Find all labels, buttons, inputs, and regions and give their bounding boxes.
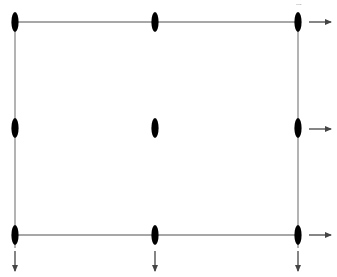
node-top-left	[11, 12, 18, 32]
node-top-middle	[151, 12, 158, 32]
node-middle-left	[11, 118, 18, 138]
node-top-right	[294, 12, 301, 32]
node-bottom-middle	[151, 225, 158, 245]
node-middle-right	[294, 118, 301, 138]
node-center	[151, 118, 158, 138]
node-bottom-right	[294, 225, 301, 245]
lattice-diagram: ...	[0, 0, 337, 277]
ellipsis-label: ...	[296, 0, 302, 6]
node-bottom-left	[11, 225, 18, 245]
